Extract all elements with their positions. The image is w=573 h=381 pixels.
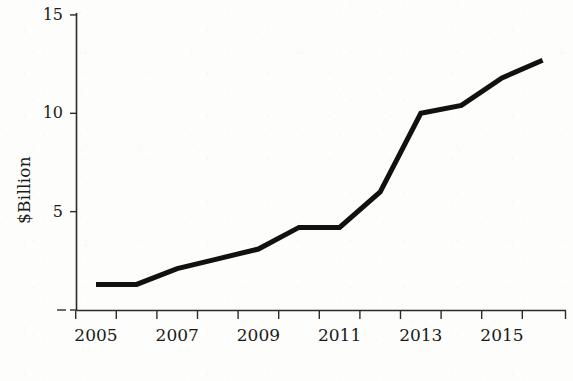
x-tick-label: 2013 [399, 325, 442, 345]
y-axis-title: $Billion [14, 156, 34, 224]
line-chart: 15105 200520072009201120132015 $Billion [0, 0, 573, 381]
x-tick-label: 2009 [237, 325, 280, 345]
x-tick-label: 2011 [318, 325, 361, 345]
y-tick-label: 10 [43, 103, 63, 122]
y-tick-label: 5 [53, 202, 63, 221]
y-axis-ticks [57, 15, 77, 310]
x-tick-label: 2007 [156, 325, 199, 345]
x-axis-ticks [76, 311, 566, 320]
x-axis-tick-labels: 200520072009201120132015 [74, 325, 523, 345]
x-tick-label: 2005 [74, 325, 117, 345]
data-series-line [96, 60, 543, 284]
y-tick-label: 15 [43, 5, 63, 24]
y-axis-tick-labels: 15105 [43, 5, 63, 221]
x-tick-label: 2015 [480, 325, 523, 345]
chart-container: 15105 200520072009201120132015 $Billion [0, 0, 573, 381]
